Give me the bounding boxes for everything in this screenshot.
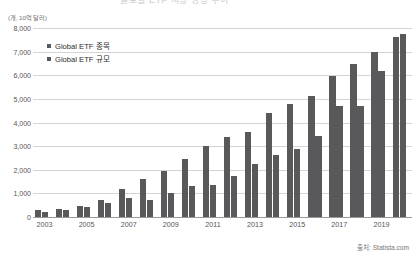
bar-aum (231, 176, 237, 217)
legend-item[interactable]: Global ETF 규모 (47, 52, 110, 65)
axis-unit-caption: (개, 10억 달러) (8, 13, 47, 22)
bar-aum (42, 212, 48, 217)
bar-group (223, 28, 244, 217)
bar-aum (63, 210, 69, 217)
bar-aum (168, 193, 174, 217)
etf-growth-chart: 글로벌 ETF 시장 성장 추이 (개, 10억 달러) 01,0002,000… (0, 0, 419, 259)
bar-group (201, 28, 222, 217)
bar-aum (105, 203, 111, 217)
bar-aum (378, 71, 384, 217)
bar-group (349, 28, 370, 217)
bar-count (56, 209, 62, 217)
x-axis-tick-label: 2017 (331, 220, 347, 229)
clipped-title-text: 글로벌 ETF 시장 성장 추이 (120, 0, 229, 6)
bar-aum (252, 164, 258, 217)
x-axis-tick-label: 2011 (205, 220, 220, 229)
bar-aum (273, 155, 279, 217)
x-axis-tick-label: 2007 (121, 220, 137, 229)
y-axis-tick-column: 01,0002,0003,0004,0005,0006,0007,0008,00… (0, 28, 31, 217)
y-axis-tick-label: 0 (3, 214, 31, 221)
bar-aum (126, 198, 132, 217)
bar-aum (84, 207, 90, 217)
bar-group (180, 28, 201, 217)
bar-aum (147, 200, 153, 217)
bar-group (159, 28, 180, 217)
bar-aum (315, 136, 321, 217)
bar-aum (294, 149, 300, 217)
bar-group (307, 28, 328, 217)
clipped-header-strip: 글로벌 ETF 시장 성장 추이 (0, 0, 419, 9)
x-axis-tick-label: 2019 (373, 220, 389, 229)
bar-count (98, 200, 104, 217)
bar-aum (189, 186, 195, 217)
y-axis-tick-label: 6,000 (3, 72, 31, 79)
bar-group (286, 28, 307, 217)
y-axis-tick-label: 4,000 (3, 119, 31, 126)
bar-count (182, 159, 188, 217)
legend-swatch-icon (47, 57, 51, 61)
y-axis-tick-label: 2,000 (3, 166, 31, 173)
x-axis-tick-label: 2013 (247, 220, 263, 229)
y-axis-tick-label: 8,000 (3, 25, 31, 32)
bar-group (370, 28, 391, 217)
bar-count (287, 104, 293, 217)
bar-count (393, 37, 399, 217)
legend-item[interactable]: Global ETF 종목 (47, 39, 110, 52)
bar-aum (400, 34, 406, 217)
x-axis-tick-label: 2009 (163, 220, 179, 229)
bar-group (265, 28, 286, 217)
bar-count (119, 189, 125, 217)
y-axis-tick-label: 3,000 (3, 143, 31, 150)
bar-count (161, 171, 167, 217)
bar-aum (210, 185, 216, 217)
bar-group (328, 28, 349, 217)
axis-baseline (33, 217, 412, 218)
bar-group (117, 28, 138, 217)
legend-swatch-icon (47, 44, 51, 48)
legend-item-label: Global ETF 종목 (55, 40, 110, 51)
x-axis-labels: 200320052007200920112013201520172019 (33, 220, 412, 234)
bar-count (77, 206, 83, 217)
x-axis-tick-label: 2015 (289, 220, 305, 229)
bar-aum (336, 106, 342, 217)
bar-count (245, 132, 251, 217)
y-axis-tick-label: 1,000 (3, 190, 31, 197)
bar-count (371, 52, 377, 217)
bar-group (391, 28, 412, 217)
bar-count (140, 179, 146, 217)
y-axis-tick-label: 5,000 (3, 95, 31, 102)
y-axis-tick-label: 7,000 (3, 48, 31, 55)
bar-count (266, 113, 272, 217)
x-axis-tick-label: 2003 (37, 220, 53, 229)
source-attribution: 출처: Statista.com (357, 242, 409, 252)
bar-count (224, 137, 230, 217)
bar-count (308, 96, 314, 217)
bar-group (244, 28, 265, 217)
chart-legend: Global ETF 종목Global ETF 규모 (47, 39, 110, 65)
bar-count (329, 76, 335, 217)
x-axis-tick-label: 2005 (79, 220, 95, 229)
bar-group (138, 28, 159, 217)
bar-count (350, 64, 356, 217)
bar-count (203, 146, 209, 217)
bar-aum (357, 106, 363, 217)
legend-item-label: Global ETF 규모 (55, 53, 110, 64)
bar-count (35, 210, 41, 217)
